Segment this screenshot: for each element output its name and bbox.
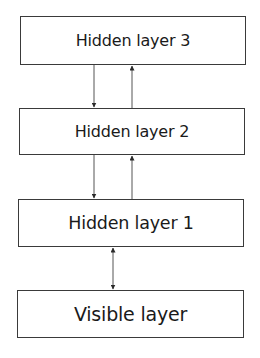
hidden-layer-3-label: Hidden layer 3 [76,31,190,50]
hidden-layer-1-box: Hidden layer 1 [18,199,244,247]
visible-layer-label: Visible layer [74,303,187,325]
hidden-layer-3-box: Hidden layer 3 [20,16,246,65]
hidden-layer-2-box: Hidden layer 2 [19,108,245,155]
visible-layer-box: Visible layer [17,290,244,338]
hidden-layer-1-label: Hidden layer 1 [68,213,193,233]
hidden-layer-2-label: Hidden layer 2 [75,122,189,141]
